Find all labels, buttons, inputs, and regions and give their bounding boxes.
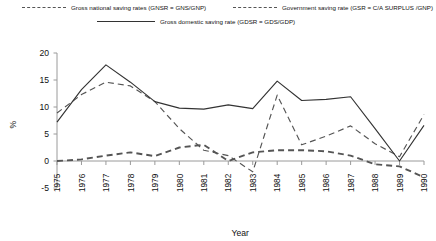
- series-line-gnsr: [57, 82, 424, 172]
- legend-swatch-dashed-thin-icon: [22, 7, 66, 8]
- legend-label-gsr: Government saving rate (GSR = C/A SURPLU…: [282, 4, 433, 11]
- x-axis-tick-label: 1985: [298, 173, 307, 192]
- plot-area: -505101520 19751976197719781979198019811…: [0, 32, 436, 241]
- legend-item-gnsr: Gross national saving rates (GNSR = GNS/…: [22, 4, 206, 11]
- chart-canvas: -505101520 19751976197719781979198019811…: [0, 32, 436, 241]
- x-axis-tick-label: 1977: [102, 173, 111, 192]
- legend-swatch-solid-icon: [97, 21, 155, 22]
- x-axis-tick-label: 1975: [53, 173, 62, 192]
- y-axis-title: %: [8, 121, 18, 129]
- x-axis-tick-label: 1990: [420, 173, 429, 192]
- legend-label-gnsr: Gross national saving rates (GNSR = GNS/…: [71, 4, 206, 11]
- data-series-group: [57, 65, 424, 177]
- legend-item-gdsr: Gross domestic saving rate (GDSR = GDS/G…: [97, 18, 295, 25]
- x-axis-tick-label: 1980: [176, 173, 185, 192]
- x-axis-tick-label: 1987: [347, 173, 356, 192]
- saving-rates-line-chart: Gross national saving rates (GNSR = GNS/…: [0, 0, 436, 241]
- legend-swatch-dashed-thick-icon: [233, 7, 277, 8]
- x-axis-tick-label: 1989: [396, 173, 405, 192]
- legend-item-gsr: Government saving rate (GSR = C/A SURPLU…: [233, 4, 433, 11]
- y-axis-tick-label: 15: [39, 75, 49, 85]
- x-axis-tick-label: 1978: [127, 173, 136, 192]
- y-axis-tick-label: -5: [41, 183, 49, 193]
- x-axis-tick-label: 1981: [200, 173, 209, 192]
- y-axis-tick-label: 10: [39, 102, 49, 112]
- x-axis: 1975197619771978197919801981198219831984…: [53, 161, 429, 192]
- x-axis-tick-label: 1988: [371, 173, 380, 192]
- legend-label-gdsr: Gross domestic saving rate (GDSR = GDS/G…: [160, 18, 295, 25]
- x-axis-title: Year: [232, 228, 250, 238]
- chart-legend: Gross national saving rates (GNSR = GNS/…: [0, 0, 436, 32]
- series-line-gdsr: [57, 65, 424, 161]
- x-axis-tick-label: 1976: [78, 173, 87, 192]
- x-axis-tick-label: 1983: [249, 173, 258, 192]
- y-axis-tick-label: 5: [44, 129, 49, 139]
- x-axis-tick-label: 1984: [273, 173, 282, 192]
- x-axis-tick-label: 1979: [151, 173, 160, 192]
- y-axis-tick-label: 20: [39, 48, 49, 58]
- x-axis-tick-label: 1986: [322, 173, 331, 192]
- y-axis-tick-label: 0: [44, 156, 49, 166]
- x-axis-tick-label: 1982: [224, 173, 233, 192]
- y-axis: -505101520: [39, 48, 57, 193]
